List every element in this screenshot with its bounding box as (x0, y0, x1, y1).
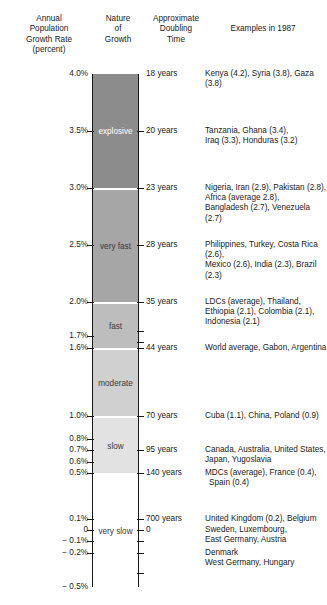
example-line: MDCs (average), France (0.4), (205, 468, 327, 478)
axis-label-rate: 0.7% (28, 446, 88, 454)
axis-label-doubling-time: 70 years (146, 412, 177, 420)
example-entry: World average, Gabon, Argentina (205, 343, 327, 353)
example-line: World average, Gabon, Argentina (205, 343, 327, 353)
tick-left (87, 473, 94, 474)
header-growth-rate-line4: (percent) (8, 45, 90, 55)
example-line: East Germany, Austria (205, 535, 327, 545)
tick-left (87, 348, 94, 349)
example-line: United Kingdom (0.2), Belgium (205, 514, 327, 524)
band-label-explosive: explosive (93, 127, 138, 136)
band-label-very-slow: very slow (93, 527, 138, 536)
tick-right (137, 131, 144, 132)
axis-label-doubling-time: 95 years (146, 446, 177, 454)
tick-left (87, 245, 94, 246)
header-nature-line1: Nature (90, 14, 146, 24)
axis-label-rate: 2.0% (28, 298, 88, 306)
axis-label-rate: 3.0% (28, 184, 88, 192)
header-growth-rate-line1: Annual (8, 14, 90, 24)
example-line: Denmark (205, 548, 327, 558)
example-line: LDCs (average), Thailand, (205, 297, 327, 307)
axis-label-rate: 1.6% (28, 344, 88, 352)
tick-left (87, 519, 94, 520)
tick-left (87, 439, 94, 440)
example-line: Africa (average 2.8), (205, 193, 327, 203)
example-line: Japan, Yugoslavia (205, 455, 327, 465)
tick-right-minor (137, 553, 144, 554)
example-line: Ethiopia (2.1), Colombia (2.1), (205, 307, 327, 317)
axis-label-rate: 1.7% (28, 332, 88, 340)
tick-right (137, 530, 144, 531)
axis-label-doubling-time: 700 years (146, 515, 182, 523)
example-line: Bangladesh (2.7), Venezuela (2.7) (205, 203, 327, 223)
tick-right (137, 188, 144, 189)
band-label-very-fast: very fast (93, 242, 138, 251)
axis-label-doubling-time: 44 years (146, 344, 177, 352)
header-nature-line2: of (90, 24, 146, 34)
example-entry: MDCs (average), France (0.4), Spain (0.4… (205, 468, 327, 488)
tick-left (87, 416, 94, 417)
axis-label-doubling-time: 23 years (146, 184, 177, 192)
band-label-slow: slow (93, 442, 138, 451)
header-nature-line3: Growth (90, 35, 146, 45)
example-entry: Philippines, Turkey, Costa Rica (2.6),Me… (205, 240, 327, 281)
tick-right-minor (137, 541, 144, 542)
example-entry: Nigeria, Iran (2.9), Pakistan (2.8),Afri… (205, 183, 327, 224)
example-entry: Tanzania, Ghana (3.4),Iraq (3.3), Hondur… (205, 126, 327, 146)
example-entry: DenmarkWest Germany, Hungary (205, 548, 327, 568)
axis-label-doubling-time: 20 years (146, 127, 177, 135)
example-line: Canada, Australia, United States, (205, 445, 327, 455)
tick-left (87, 336, 94, 337)
axis-label-doubling-time: 0 (146, 526, 151, 534)
example-entry: LDCs (average), Thailand,Ethiopia (2.1),… (205, 297, 327, 328)
header-doubling-line1: Approximate (140, 14, 212, 24)
example-line: Cuba (1.1), China, Poland (0.9) (205, 411, 327, 421)
axis-label-rate: 4.0% (28, 70, 88, 78)
examples-column: Kenya (4.2), Syria (3.8), Gaza (3.8)Tanz… (205, 74, 324, 594)
tick-left (87, 450, 94, 451)
header-nature-of-growth: Nature of Growth (90, 14, 146, 45)
tick-right (137, 245, 144, 246)
tick-right (137, 348, 144, 349)
tick-right (137, 416, 144, 417)
example-line: Tanzania, Ghana (3.4), (205, 126, 327, 136)
axis-label-rate: 1.0% (28, 412, 88, 420)
header-growth-rate-line2: Population (8, 24, 90, 34)
axis-label-doubling-time: 18 years (146, 70, 177, 78)
axis-label-rate: 0.5% (28, 469, 88, 477)
example-line: Mexico (2.6), India (2.3), Brazil (2.3) (205, 260, 327, 280)
axis-label-rate: − 0.1% (28, 537, 88, 545)
tick-right (137, 450, 144, 451)
axis-label-rate: − 0.5% (28, 583, 88, 591)
axis-label-rate: − 0.2% (28, 549, 88, 557)
example-line: Spain (0.4) (205, 478, 327, 488)
axis-label-rate: 0.8% (28, 435, 88, 443)
example-line: West Germany, Hungary (205, 558, 327, 568)
example-entry: United Kingdom (0.2), Belgium (205, 514, 327, 524)
tick-right-minor (137, 573, 144, 574)
left-axis-labels: 4.0%3.5%3.0%2.5%2.0%1.7%1.6%1.0%0.8%0.7%… (22, 74, 88, 587)
tick-left (87, 530, 94, 531)
example-entry: Sweden, Luxembourg,East Germany, Austria (205, 525, 327, 545)
tick-left (87, 462, 94, 463)
example-line: Sweden, Luxembourg, (205, 525, 327, 535)
tick-left (87, 553, 94, 554)
example-line: Kenya (4.2), Syria (3.8), Gaza (3.8) (205, 69, 327, 89)
axis-label-doubling-time: 28 years (146, 241, 177, 249)
example-line: Philippines, Turkey, Costa Rica (2.6), (205, 240, 327, 260)
example-entry: Cuba (1.1), China, Poland (0.9) (205, 411, 327, 421)
growth-rate-bar: explosivevery fastfastmoderateslowvery s… (92, 74, 139, 587)
axis-label-doubling-time: 140 years (146, 469, 182, 477)
axis-label-rate: 0 (28, 526, 88, 534)
tick-right (137, 302, 144, 303)
tick-left (87, 302, 94, 303)
example-line: Iraq (3.3), Honduras (3.2) (205, 136, 327, 146)
header-doubling-line2: Doubling (140, 24, 212, 34)
axis-label-rate: 0.6% (28, 458, 88, 466)
tick-left (87, 131, 94, 132)
header-growth-rate: Annual Population Growth Rate (percent) (8, 14, 90, 56)
tick-right-minor (137, 331, 144, 332)
tick-left (87, 188, 94, 189)
tick-left (87, 541, 94, 542)
band-label-moderate: moderate (93, 379, 138, 388)
